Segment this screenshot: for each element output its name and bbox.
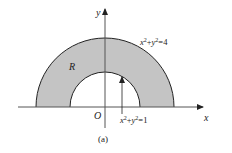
figure-caption: (a) <box>98 134 108 144</box>
region-label: R <box>68 61 75 72</box>
inner-curve-label: x2+y2=1 <box>119 115 147 125</box>
x-axis-label: x <box>203 112 209 123</box>
outer-curve-label: x2+y2=4 <box>139 37 168 47</box>
origin-label: O <box>94 110 101 121</box>
polar-region-diagram: y x O R x2+y2=4 x2+y2=1 (a) <box>0 0 232 153</box>
y-axis-label: y <box>95 7 101 18</box>
